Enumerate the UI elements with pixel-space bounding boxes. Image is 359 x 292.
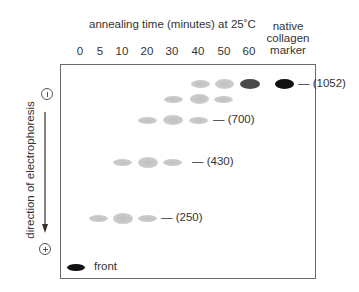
lane-label-40: 40 (186, 45, 210, 57)
band-40min-mid (190, 94, 209, 104)
band-marker-1052 (275, 79, 294, 89)
direction-arrow-icon (40, 110, 50, 236)
minus-electrode-icon (41, 88, 53, 100)
gel-frame (60, 64, 316, 279)
band-50min-1052 (215, 79, 234, 89)
lane-label-50: 50 (212, 45, 236, 57)
size-label-250: — (250) (161, 211, 203, 223)
band-30min-700 (163, 115, 183, 125)
size-label-430: — (430) (192, 155, 234, 167)
band-40min-1052 (191, 80, 210, 88)
band-20min-700 (138, 117, 157, 124)
band-5min-250 (89, 215, 108, 222)
band-10min-250 (113, 213, 133, 224)
plus-electrode-icon (39, 243, 51, 255)
marker-header-line-3: marker (262, 44, 314, 56)
lane-label-60: 60 (237, 45, 261, 57)
lane-label-20: 20 (135, 45, 159, 57)
band-60min-1052 (240, 79, 260, 89)
front-label: front (94, 260, 117, 272)
size-label-1052: — (1052) (298, 77, 346, 89)
figure-title: annealing time (minutes) at 25˚C (89, 18, 256, 30)
marker-header-line-1: native (262, 20, 314, 32)
marker-header: native collagen marker (262, 20, 314, 56)
marker-header-line-2: collagen (262, 32, 314, 44)
band-30min-430 (163, 159, 182, 166)
lane-label-5: 5 (88, 45, 112, 57)
lane-label-30: 30 (160, 45, 184, 57)
band-30min-mid (164, 96, 183, 103)
electrophoresis-direction-label: direction of electrophoresis (24, 101, 36, 238)
lane-label-10: 10 (110, 45, 134, 57)
band-40min-700 (189, 117, 208, 124)
band-50min-mid (214, 96, 233, 103)
band-20min-430 (138, 157, 158, 168)
size-label-700: — (700) (213, 113, 255, 125)
band-10min-430 (113, 159, 132, 166)
band-front (67, 264, 85, 271)
band-20min-250 (138, 215, 157, 222)
